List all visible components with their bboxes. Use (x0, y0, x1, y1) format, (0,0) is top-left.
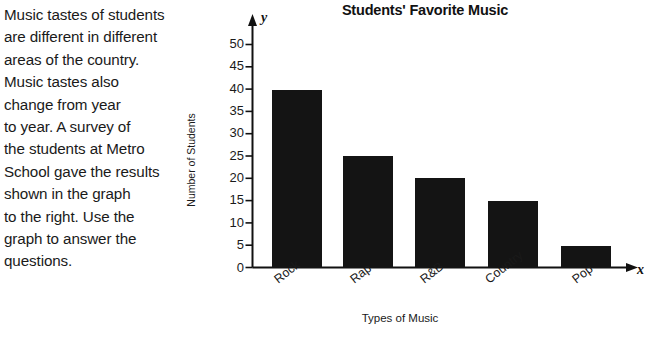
bar-rap (343, 156, 393, 269)
bar-chart: Students' Favorite Music 50 45 40 35 30 … (0, 0, 652, 339)
y-axis-tick-label: 35 (214, 104, 244, 117)
worksheet-page: Music tastes of students are different i… (0, 0, 652, 339)
y-axis-tick-label: 45 (214, 59, 244, 72)
y-axis-tick-label: 30 (214, 126, 244, 139)
x-axis-letter: x (637, 262, 644, 278)
y-axis-tick-label: 0 (214, 261, 244, 274)
y-axis-title: Number of Students (186, 105, 197, 215)
y-axis-letter: y (261, 10, 267, 26)
bar-rnb (415, 178, 465, 268)
y-axis-tick-label: 20 (214, 171, 244, 184)
x-axis-title: Types of Music (310, 312, 490, 324)
y-axis-tick-label: 10 (214, 216, 244, 229)
y-axis-tick-label: 15 (214, 193, 244, 206)
y-axis-tick-label: 50 (214, 37, 244, 50)
bar-rock (272, 90, 322, 268)
y-axis-tick-label: 40 (214, 82, 244, 95)
chart-axes (0, 0, 652, 339)
y-axis-tick-label: 25 (214, 149, 244, 162)
y-axis-tick-label: 5 (214, 238, 244, 251)
